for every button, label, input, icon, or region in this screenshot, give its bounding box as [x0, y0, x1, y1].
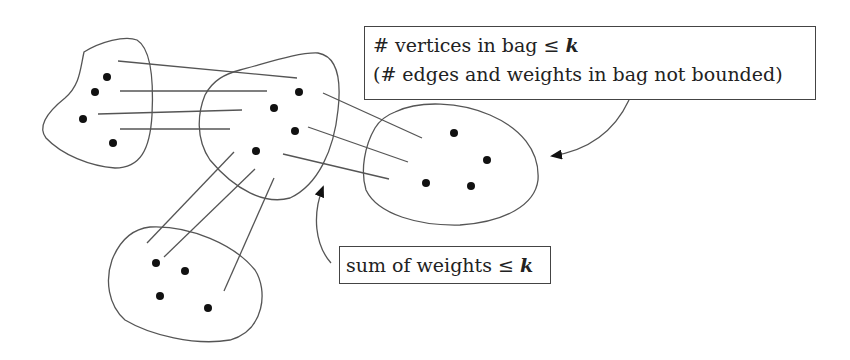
- edge: [98, 110, 242, 114]
- weights-annotation-arrow: [316, 187, 331, 263]
- vertices-bound-label: # vertices in bag ≤ k (# edges and weigh…: [364, 26, 816, 100]
- edge: [164, 169, 255, 257]
- tree-decomposition-diagram: # vertices in bag ≤ k (# edges and weigh…: [0, 0, 850, 360]
- vertices-bound-text: # vertices in bag ≤: [373, 34, 565, 56]
- edge: [283, 154, 389, 179]
- edge: [308, 127, 408, 162]
- vertices-bound-line2: (# edges and weights in bag not bounded): [373, 60, 807, 89]
- edge: [224, 178, 274, 291]
- left-bag-outline: [43, 38, 153, 168]
- edge: [147, 152, 234, 243]
- weights-bound-label: sum of weights ≤ k: [339, 246, 551, 284]
- k-variable: k: [565, 34, 578, 56]
- bottom-bag-outline: [108, 227, 262, 342]
- weights-bound-text: sum of weights ≤: [346, 254, 520, 276]
- edge: [118, 61, 297, 78]
- vertices-bound-line1: # vertices in bag ≤ k: [373, 31, 807, 60]
- k-variable: k: [520, 254, 533, 276]
- right-bag-outline: [363, 104, 538, 225]
- vertices-annotation-arrow: [552, 100, 629, 156]
